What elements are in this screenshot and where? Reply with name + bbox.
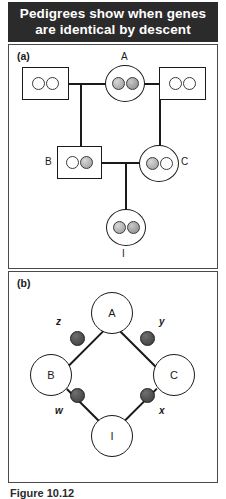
node-C: C [153, 354, 195, 396]
node-I-label: I [110, 430, 113, 442]
node-C-label: C [170, 369, 178, 381]
panel-a-label: (a) [17, 50, 30, 62]
individual-founder-male-left [22, 67, 69, 100]
gamete-dot-z [70, 331, 85, 346]
path-label-w: w [55, 405, 63, 416]
allele-white [160, 157, 173, 170]
node-B: B [30, 354, 72, 396]
label-A: A [121, 51, 128, 62]
gamete-dot-x [140, 388, 155, 403]
individual-C [139, 145, 179, 182]
node-B-label: B [47, 369, 54, 381]
allele-white [32, 77, 45, 90]
individual-B [57, 146, 102, 179]
path-label-y: y [159, 316, 165, 327]
gamete-dot-w [70, 388, 85, 403]
header-title-line-1: Pedigrees show when genes [20, 6, 206, 22]
descent-line-to-I [125, 162, 127, 210]
allele-grey [113, 221, 126, 234]
node-I: I [91, 415, 133, 457]
gamete-dot-y [140, 331, 155, 346]
panel-b-label: (b) [17, 277, 30, 289]
label-C: C [181, 156, 188, 167]
path-label-z: z [56, 316, 61, 327]
allele-grey [80, 156, 93, 169]
label-I: I [122, 248, 125, 259]
allele-grey [126, 77, 139, 90]
panel-b: (b) A B C I z y w x [8, 271, 218, 483]
allele-white [66, 156, 79, 169]
allele-white [169, 77, 182, 90]
allele-grey [146, 157, 159, 170]
panel-a: (a) A B C [8, 44, 218, 269]
allele-white [183, 77, 196, 90]
individual-I [106, 209, 146, 246]
node-A: A [91, 292, 133, 334]
header-title-line-2: are identical by descent [35, 22, 190, 38]
path-label-x: x [159, 405, 165, 416]
individual-founder-male-right [159, 67, 206, 100]
descent-line-to-B [80, 83, 82, 149]
allele-white [46, 77, 59, 90]
allele-grey [112, 77, 125, 90]
figure-caption: Figure 10.12 [10, 487, 226, 499]
individual-A [105, 65, 145, 102]
node-A-label: A [108, 307, 115, 319]
label-B: B [45, 156, 52, 167]
allele-grey [127, 221, 140, 234]
figure-header-banner: Pedigrees show when genes are identical … [8, 2, 218, 42]
